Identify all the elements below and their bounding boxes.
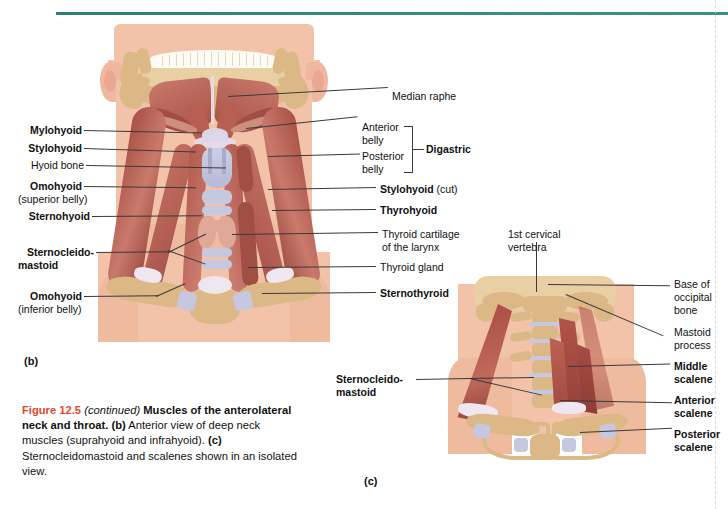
label-anterior-belly-line2: belly bbox=[362, 134, 384, 147]
label-stylohyoid-cut-suffix: (cut) bbox=[434, 183, 458, 195]
label-sternothyroid-text: Sternothyroid bbox=[380, 287, 449, 299]
label-sternocleidomastoid-c-text: Sternocleido- bbox=[336, 373, 403, 385]
label-sternothyroid: Sternothyroid bbox=[380, 287, 449, 300]
label-hyoid-bone-text: Hyoid bone bbox=[31, 159, 84, 171]
label-mylohyoid-text: Mylohyoid bbox=[30, 124, 82, 136]
label-thyrohyoid: Thyrohyoid bbox=[380, 204, 437, 217]
label-anterior-scalene-text: Anterior bbox=[674, 394, 715, 406]
label-mastoid-process: Mastoid bbox=[674, 326, 711, 339]
label-omohyoid-inferior: Omohyoid bbox=[0, 290, 82, 303]
label-mastoid-process-line2: process bbox=[674, 339, 711, 352]
figure-caption: Figure 12.5 (continued) Muscles of the a… bbox=[22, 403, 302, 479]
label-sternocleidomastoid-line2: mastoid bbox=[18, 259, 58, 272]
figure-part-c-tag: (c) bbox=[208, 434, 222, 446]
label-omohyoid-superior-text: Omohyoid bbox=[30, 180, 82, 192]
label-first-cervical-vertebra-text: 1st cervical bbox=[508, 228, 561, 240]
label-base-occipital-bone-text: Base of bbox=[674, 278, 710, 290]
label-thyroid-cartilage-line2: of the larynx bbox=[382, 241, 439, 254]
label-stylohyoid-text: Stylohyoid bbox=[28, 142, 82, 154]
top-divider-rule bbox=[56, 12, 728, 15]
panel-b-mark-text: (b) bbox=[24, 355, 38, 367]
digastric-bracket-stub bbox=[412, 149, 424, 150]
label-sternocleidomastoid-c-line2-text: mastoid bbox=[336, 386, 376, 398]
label-base-occipital-bone-line2: occipital bbox=[674, 291, 712, 304]
label-first-cervical-vertebra: 1st cervical bbox=[508, 228, 561, 241]
label-sternocleidomastoid-c-line2: mastoid bbox=[336, 386, 376, 399]
label-mastoid-process-line2-text: process bbox=[674, 339, 711, 351]
label-stylohyoid: Stylohyoid bbox=[0, 142, 82, 155]
label-anterior-belly-text: Anterior bbox=[362, 121, 399, 133]
figure-continued: (continued) bbox=[84, 404, 140, 416]
label-middle-scalene-text: Middle bbox=[674, 360, 707, 372]
label-middle-scalene-line2: scalene bbox=[674, 373, 713, 386]
label-omohyoid-inferior-sub: (inferior belly) bbox=[18, 303, 82, 316]
label-thyroid-cartilage-line2-text: of the larynx bbox=[382, 241, 439, 253]
median-raphe-structure bbox=[211, 76, 214, 124]
label-stylohyoid-cut: Stylohyoid (cut) bbox=[380, 183, 458, 196]
label-thyroid-cartilage: Thyroid cartilage bbox=[382, 228, 460, 241]
label-base-occipital-bone-line3: bone bbox=[674, 304, 697, 317]
panel-b-illustration bbox=[98, 24, 330, 342]
figure-part-b-tag: (b) bbox=[112, 419, 126, 431]
label-sternohyoid-text: Sternohyoid bbox=[29, 210, 90, 222]
figure-number: Figure 12.5 bbox=[22, 404, 81, 416]
label-thyrohyoid-text: Thyrohyoid bbox=[380, 204, 437, 216]
label-sternohyoid: Sternohyoid bbox=[0, 210, 90, 223]
label-anterior-belly-line2-text: belly bbox=[362, 134, 384, 146]
label-anterior-belly: Anterior bbox=[362, 121, 399, 134]
label-omohyoid-superior-sub: (superior belly) bbox=[18, 193, 87, 206]
label-thyroid-gland: Thyroid gland bbox=[380, 261, 444, 274]
label-digastric: Digastric bbox=[426, 143, 471, 156]
label-posterior-scalene: Posterior bbox=[674, 428, 720, 441]
label-sternocleidomastoid: Sternocleido- bbox=[0, 246, 94, 259]
figure-part-c-text: Sternocleidomastoid and scalenes shown i… bbox=[22, 450, 297, 477]
label-posterior-belly: Posterior bbox=[362, 150, 404, 163]
label-posterior-belly-text: Posterior bbox=[362, 150, 404, 162]
label-omohyoid-superior: Omohyoid bbox=[0, 180, 82, 193]
label-median-raphe-text: Median raphe bbox=[392, 90, 456, 102]
label-posterior-scalene-line2-text: scalene bbox=[674, 441, 713, 453]
label-sternocleidomastoid-text: Sternocleido- bbox=[27, 246, 94, 258]
label-base-occipital-bone-line3-text: bone bbox=[674, 304, 697, 316]
label-omohyoid-inferior-text: Omohyoid bbox=[30, 290, 82, 302]
label-middle-scalene-line2-text: scalene bbox=[674, 373, 713, 385]
panel-c-mark-text: (c) bbox=[364, 475, 377, 487]
label-anterior-scalene: Anterior bbox=[674, 394, 715, 407]
label-digastric-text: Digastric bbox=[426, 143, 471, 155]
label-sternocleidomastoid-line2-text: mastoid bbox=[18, 259, 58, 271]
label-hyoid-bone: Hyoid bone bbox=[0, 159, 84, 172]
digastric-bracket-bottom bbox=[404, 172, 413, 173]
label-posterior-scalene-line2: scalene bbox=[674, 441, 713, 454]
label-thyroid-gland-text: Thyroid gland bbox=[380, 261, 444, 273]
label-posterior-belly-line2-text: belly bbox=[362, 163, 384, 175]
label-omohyoid-superior-sub-text: (superior belly) bbox=[18, 193, 87, 205]
label-anterior-scalene-line2-text: scalene bbox=[674, 407, 713, 419]
label-posterior-scalene-text: Posterior bbox=[674, 428, 720, 440]
label-middle-scalene: Middle bbox=[674, 360, 707, 373]
label-first-cervical-vertebra-line2-text: vertebra bbox=[508, 241, 547, 253]
label-base-occipital-bone: Base of bbox=[674, 278, 710, 291]
label-thyroid-cartilage-text: Thyroid cartilage bbox=[382, 228, 460, 240]
label-sternocleidomastoid-c: Sternocleido- bbox=[336, 373, 403, 386]
digastric-bracket-top bbox=[404, 126, 413, 127]
label-omohyoid-inferior-sub-text: (inferior belly) bbox=[18, 303, 82, 315]
panel-c-mark: (c) bbox=[364, 475, 377, 487]
label-anterior-scalene-line2: scalene bbox=[674, 407, 713, 420]
label-median-raphe: Median raphe bbox=[392, 90, 456, 103]
label-base-occipital-bone-line2-text: occipital bbox=[674, 291, 712, 303]
label-mastoid-process-text: Mastoid bbox=[674, 326, 711, 338]
sternum-bone-c bbox=[530, 434, 560, 460]
label-mylohyoid: Mylohyoid bbox=[0, 124, 82, 137]
panel-b-mark: (b) bbox=[24, 355, 38, 367]
label-stylohyoid-cut-text: Stylohyoid bbox=[380, 183, 434, 195]
label-first-cervical-vertebra-line2: vertebra bbox=[508, 241, 547, 254]
label-posterior-belly-line2: belly bbox=[362, 163, 384, 176]
